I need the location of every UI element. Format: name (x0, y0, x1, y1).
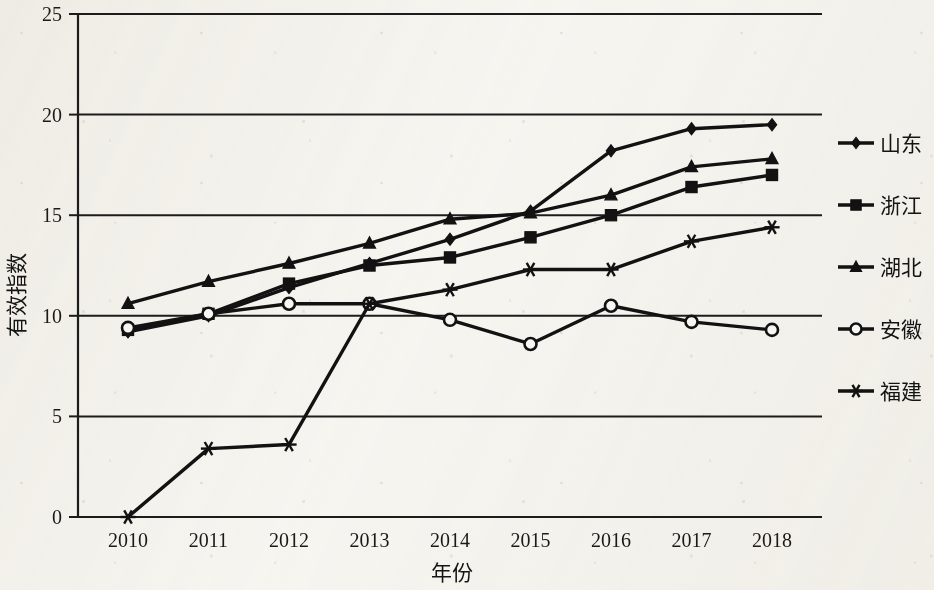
axis-ticks (69, 14, 78, 517)
series-line (128, 125, 772, 332)
legend-entry-浙江[interactable]: 浙江 (838, 194, 922, 218)
legend-label: 安徽 (880, 318, 922, 342)
chart-legend: 山东浙江湖北安徽福建 (838, 132, 922, 404)
x-tick-label: 2017 (672, 529, 712, 551)
legend-label: 山东 (880, 132, 922, 156)
data-point-square (605, 210, 616, 221)
data-point-asterisk (684, 235, 699, 248)
data-point-square (283, 278, 294, 289)
legend-entry-安徽[interactable]: 安徽 (838, 318, 922, 342)
x-tick-label: 2013 (350, 529, 390, 551)
series-line (128, 227, 772, 517)
line-chart: 0510152025 20102011201220132014201520162… (0, 0, 934, 590)
legend-label: 福建 (880, 380, 922, 404)
data-point-square (851, 200, 861, 210)
legend-entry-湖北[interactable]: 湖北 (838, 256, 922, 280)
y-tick-label: 20 (42, 104, 62, 126)
chart-figure: 0510152025 20102011201220132014201520162… (0, 0, 934, 590)
data-point-diamond (852, 137, 861, 148)
data-point-diamond (445, 233, 454, 245)
data-point-circle-open (686, 316, 698, 328)
legend-label: 湖北 (880, 256, 922, 280)
series-湖北 (122, 152, 778, 308)
data-point-diamond (687, 123, 696, 135)
data-point-circle-open (850, 323, 861, 334)
x-tick-label: 2010 (108, 529, 148, 551)
x-tick-label: 2011 (189, 529, 228, 551)
x-tick-label: 2012 (269, 529, 309, 551)
axis-lines (78, 14, 822, 517)
x-tick-label: 2018 (752, 529, 792, 551)
data-point-asterisk (764, 221, 779, 234)
y-axis-title: 有效指数 (5, 253, 29, 337)
series-福建 (120, 221, 779, 524)
data-point-asterisk (849, 385, 863, 397)
series-安徽 (122, 298, 778, 350)
data-point-square (766, 169, 777, 180)
x-tick-label: 2015 (511, 529, 551, 551)
y-tick-labels: 0510152025 (42, 3, 62, 528)
data-point-circle-open (283, 298, 295, 310)
series-line (128, 159, 772, 304)
data-point-circle-open (444, 314, 456, 326)
y-tick-label: 15 (42, 204, 62, 226)
legend-entry-福建[interactable]: 福建 (838, 380, 922, 404)
data-point-square (444, 252, 455, 263)
x-tick-label: 2014 (430, 529, 470, 551)
data-point-square (364, 260, 375, 271)
data-point-diamond (767, 119, 776, 131)
data-point-asterisk (281, 438, 296, 451)
y-tick-label: 0 (52, 506, 62, 528)
y-tick-label: 10 (42, 305, 62, 327)
y-tick-label: 25 (42, 3, 62, 25)
series-layer (120, 119, 779, 524)
data-point-asterisk (442, 283, 457, 296)
data-point-circle-open (203, 308, 215, 320)
legend-label: 浙江 (880, 194, 922, 218)
x-axis-title: 年份 (431, 561, 473, 585)
x-tick-labels: 201020112012201320142015201620172018 (108, 529, 792, 551)
data-point-asterisk (523, 263, 538, 276)
x-tick-label: 2016 (591, 529, 631, 551)
data-point-asterisk (603, 263, 618, 276)
data-point-circle-open (766, 324, 778, 336)
data-point-square (525, 232, 536, 243)
y-tick-label: 5 (52, 405, 62, 427)
series-山东 (123, 119, 776, 338)
legend-entry-山东[interactable]: 山东 (838, 132, 922, 156)
data-point-circle-open (525, 338, 537, 350)
data-point-circle-open (605, 300, 617, 312)
data-point-square (686, 181, 697, 192)
data-point-circle-open (122, 322, 134, 334)
